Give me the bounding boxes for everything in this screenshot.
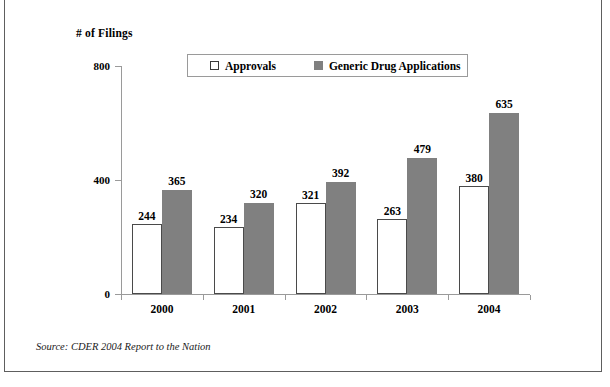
bar-2002-generic: 392 [326, 182, 356, 294]
source-note: Source: CDER 2004 Report to the Nation [36, 341, 211, 352]
bar-value-label: 635 [495, 98, 512, 110]
x-tick-mark [366, 295, 367, 300]
x-tick-mark [448, 295, 449, 300]
x-axis-label-2002: 2002 [314, 303, 337, 315]
chart-legend: Approvals Generic Drug Applications [187, 54, 468, 77]
bar-value-label: 392 [332, 167, 349, 179]
x-tick-mark [121, 295, 122, 300]
x-axis-label-2000: 2000 [150, 303, 173, 315]
bar-value-label: 479 [414, 143, 431, 155]
y-tick-label: 0 [105, 288, 111, 300]
y-tick-label: 400 [94, 174, 111, 186]
bar-2000-generic: 365 [162, 190, 192, 294]
x-axis-label-2001: 2001 [232, 303, 255, 315]
x-tick-mark [530, 295, 531, 300]
bar-2001-approvals: 234 [214, 227, 244, 294]
bar-value-label: 244 [138, 210, 155, 222]
x-tick-mark [285, 295, 286, 300]
bar-2003-approvals: 263 [377, 219, 407, 294]
bar-2004-approvals: 380 [459, 186, 489, 294]
x-axis-label-2003: 2003 [396, 303, 419, 315]
y-axis-title: # of Filings [76, 27, 133, 39]
plot-area: 244365234320321392263479380635 [121, 66, 530, 294]
chart-canvas: # of Filings 0400800 2443652343203213922… [0, 0, 610, 387]
bar-2004-generic: 635 [489, 113, 519, 294]
bar-value-label: 320 [250, 188, 267, 200]
bar-value-label: 263 [384, 205, 401, 217]
bar-2000-approvals: 244 [132, 224, 162, 294]
x-tick-mark [203, 295, 204, 300]
legend-label: Approvals [225, 60, 276, 72]
bar-value-label: 380 [465, 172, 482, 184]
bar-value-label: 234 [220, 213, 237, 225]
legend-item-generic-drug-applications: Generic Drug Applications [314, 60, 461, 72]
x-axis-line [121, 294, 530, 295]
bar-2001-generic: 320 [244, 203, 274, 294]
bar-2003-generic: 479 [407, 158, 437, 295]
x-axis-label-2004: 2004 [478, 303, 501, 315]
bar-2002-approvals: 321 [296, 203, 326, 294]
legend-label: Generic Drug Applications [329, 60, 461, 72]
bar-value-label: 365 [168, 175, 185, 187]
hollow-square-icon [210, 61, 219, 70]
bar-value-label: 321 [302, 189, 319, 201]
y-tick-label: 800 [94, 60, 111, 72]
legend-item-approvals: Approvals [210, 60, 276, 72]
filled-square-icon [314, 61, 323, 70]
